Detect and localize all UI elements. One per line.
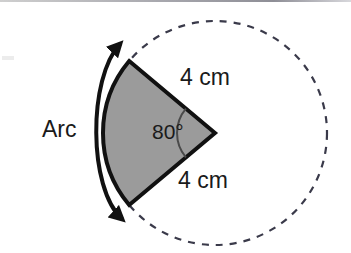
sector-figure: 4 cm 80° 4 cm Arc: [0, 0, 351, 253]
arc-label: Arc: [42, 116, 77, 142]
radius-label-top: 4 cm: [180, 64, 230, 90]
geometry-diagram: 4 cm 80° 4 cm Arc: [0, 0, 351, 253]
angle-label: 80°: [152, 120, 184, 143]
radius-label-bottom: 4 cm: [178, 167, 228, 193]
